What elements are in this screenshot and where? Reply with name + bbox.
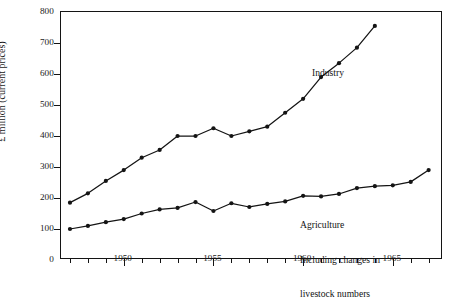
annotation-industry: Industry	[312, 67, 344, 79]
x-tick-label: 1950	[114, 253, 132, 263]
y-tick-label: 300	[40, 161, 54, 171]
x-tick-label: 1955	[203, 253, 221, 263]
y-tick-label: 600	[40, 68, 54, 78]
y-tick-label: 200	[40, 192, 54, 202]
annotation-agriculture-line2: Including changes in	[300, 254, 380, 266]
y-tick-label: 0	[49, 254, 54, 264]
y-tick-label: 100	[40, 223, 54, 233]
y-tick-label: 400	[40, 130, 54, 140]
y-axis-title: £ million (current prices)	[0, 0, 7, 197]
y-axis-tick-labels: 0100200300400500600700800	[24, 11, 54, 259]
annotation-agriculture-line1: Agriculture	[300, 219, 380, 231]
annotation-agriculture-line3: livestock numbers	[300, 288, 380, 300]
y-tick-label: 500	[40, 99, 54, 109]
x-axis-tick-labels: 1950195519601965	[60, 0, 442, 281]
y-tick-label: 800	[40, 6, 54, 16]
y-tick-label: 700	[40, 37, 54, 47]
annotation-agriculture: Agriculture Including changes in livesto…	[300, 196, 380, 301]
x-tick-label: 1965	[383, 253, 401, 263]
